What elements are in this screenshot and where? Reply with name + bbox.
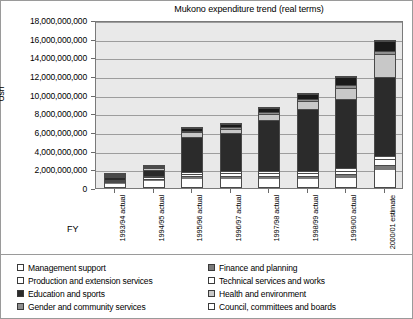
x-tick-label: 1995/96 actual	[195, 195, 204, 241]
x-tick-mark	[345, 189, 346, 193]
legend-swatch-icon	[17, 264, 24, 271]
y-tick-mark	[91, 152, 95, 153]
legend-label: Education and sports	[28, 289, 105, 299]
legend-item: Education and sports	[17, 287, 153, 300]
bar-segment	[298, 101, 318, 109]
y-tick-label: 8,000,000,000	[35, 109, 87, 119]
x-axis-title: FY	[67, 224, 79, 234]
y-tick-label: 4,000,000,000	[35, 147, 87, 157]
y-tick-mark	[91, 133, 95, 134]
bar-segment	[336, 77, 356, 85]
legend-label: Finance and planning	[219, 263, 297, 273]
bar-1996-97-actual	[220, 123, 242, 188]
bar-1994-95-actual	[143, 165, 165, 188]
legend-label: Production and extension services	[28, 276, 153, 286]
x-tick-label: 1999/00 actual	[349, 195, 358, 241]
y-tick-mark	[91, 58, 95, 59]
legend-item: Production and extension services	[17, 274, 153, 287]
y-tick-label: 0	[82, 184, 87, 194]
bar-segment	[259, 179, 279, 187]
legend-column-right: Finance and planningTechnical services a…	[208, 261, 336, 313]
x-tick-label: 2000/01 estimate	[388, 195, 397, 249]
x-tick-mark	[153, 189, 154, 193]
x-tick-mark	[191, 189, 192, 193]
gridline	[96, 59, 402, 60]
y-tick-mark	[91, 77, 95, 78]
x-tick-label: 1998/99 actual	[311, 195, 320, 241]
legend-label: Council, committees and boards	[219, 302, 336, 312]
y-tick-label: 16,000,000,000	[30, 35, 87, 45]
bar-1995-96-actual	[181, 127, 203, 188]
bar-segment	[221, 133, 241, 171]
x-tick-label: 1997/98 actual	[272, 195, 281, 241]
y-tick-mark	[91, 114, 95, 115]
bar-segment	[105, 184, 125, 187]
x-tick-mark	[307, 189, 308, 193]
legend-swatch-icon	[17, 303, 24, 310]
x-tick-mark	[114, 189, 115, 193]
x-axis-ticks	[95, 189, 403, 194]
y-tick-label: 2,000,000,000	[35, 165, 87, 175]
bar-segment	[336, 88, 356, 99]
y-tick-label: 14,000,000,000	[30, 53, 87, 63]
bar-1997-98-actual	[258, 107, 280, 188]
bar-segment	[336, 178, 356, 187]
bar-1993-94-actual	[104, 173, 126, 188]
x-tick-mark	[268, 189, 269, 193]
legend-column-left: Management supportProduction and extensi…	[17, 261, 153, 313]
y-tick-mark	[91, 21, 95, 22]
bar-1999-00-actual	[335, 76, 357, 188]
x-tick-mark	[384, 189, 385, 193]
x-tick-label: 1993/94 actual	[118, 195, 127, 241]
x-tick-label: 1996/97 actual	[234, 195, 243, 241]
legend-swatch-icon	[208, 290, 215, 297]
bar-segment	[182, 137, 202, 172]
legend-swatch-icon	[208, 303, 215, 310]
legend-label: Health and environment	[219, 289, 306, 299]
bar-segment	[375, 170, 395, 187]
legend-label: Technical services and works	[219, 276, 325, 286]
legend-item: Finance and planning	[208, 261, 336, 274]
bar-segment	[298, 179, 318, 187]
y-tick-mark	[91, 189, 95, 190]
gridline	[96, 41, 402, 42]
bar-1998-99-actual	[297, 93, 319, 188]
x-tick-label: 1994/95 actual	[157, 195, 166, 241]
bar-segment	[144, 181, 164, 187]
y-tick-label: 12,000,000,000	[30, 72, 87, 82]
bar-segment	[298, 109, 318, 170]
x-tick-mark	[230, 189, 231, 193]
y-tick-mark	[91, 40, 95, 41]
legend-swatch-icon	[17, 277, 24, 284]
legend-swatch-icon	[17, 290, 24, 297]
chart-legend: Management supportProduction and extensi…	[0, 255, 413, 319]
bar-segment	[221, 179, 241, 187]
bar-segment	[336, 99, 356, 168]
bar-segment	[375, 54, 395, 77]
bar-segment	[259, 120, 279, 171]
y-tick-label: 6,000,000,000	[35, 128, 87, 138]
legend-label: Gender and community services	[28, 302, 146, 312]
bar-segment	[375, 77, 395, 155]
chart-title: Mukono expenditure trend (real terms)	[95, 4, 403, 14]
legend-swatch-icon	[208, 264, 215, 271]
y-tick-label: 10,000,000,000	[30, 91, 87, 101]
legend-label: Management support	[28, 263, 106, 273]
legend-item: Management support	[17, 261, 153, 274]
legend-item: Gender and community services	[17, 300, 153, 313]
legend-item: Council, committees and boards	[208, 300, 336, 313]
y-tick-label: 18,000,000,000	[30, 16, 87, 26]
legend-swatch-icon	[208, 277, 215, 284]
chart-area: Mukono expenditure trend (real terms) Us…	[0, 0, 413, 255]
bar-segment	[375, 41, 395, 51]
bar-segment	[182, 179, 202, 187]
legend-item: Technical services and works	[208, 274, 336, 287]
legend-item: Health and environment	[208, 287, 336, 300]
chart-screenshot: Mukono expenditure trend (real terms) Us…	[0, 0, 413, 319]
y-tick-mark	[91, 96, 95, 97]
y-axis-labels: 02,000,000,0004,000,000,0006,000,000,000…	[5, 21, 91, 189]
plot-area	[95, 21, 403, 189]
y-tick-mark	[91, 170, 95, 171]
gridline	[96, 22, 402, 23]
bar-2000-01-estimate	[374, 40, 396, 188]
